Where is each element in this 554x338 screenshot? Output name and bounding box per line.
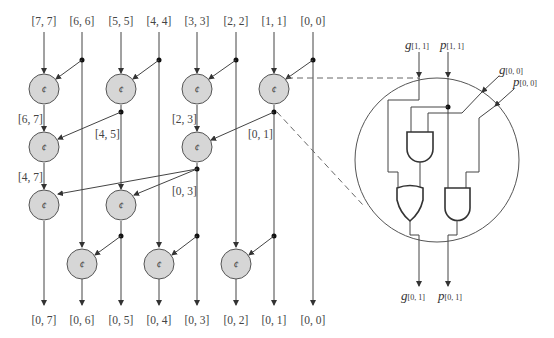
svg-text:¢: ¢ [195,142,200,153]
svg-text:¢: ¢ [42,142,47,153]
and-gate [407,132,433,162]
p00-label: p[0, 0] [512,74,537,89]
prefix-node: ¢ [106,190,136,220]
label-2-3: [2, 3] [172,113,197,126]
input-label-6: [6, 6] [70,15,95,28]
output-label-7: [0, 7] [32,314,57,327]
svg-text:¢: ¢ [80,259,85,270]
prefix-node: ¢ [144,249,174,279]
prefix-node: ¢ [29,190,59,220]
prefix-node: ¢ [67,249,97,279]
output-labels: [0, 7] [0, 6] [0, 5] [0, 4] [0, 3] [0, 2… [32,314,326,327]
input-label-1: [1, 1] [262,15,287,28]
label-6-7: [6, 7] [18,113,43,126]
svg-text:¢: ¢ [195,84,200,95]
svg-text:¢: ¢ [234,259,239,270]
prefix-adder-diagram: [7, 7] [6, 6] [5, 5] [4, 4] [3, 3] [2, 2… [0,0,554,338]
prefix-node: ¢ [29,132,59,162]
svg-text:¢: ¢ [119,84,124,95]
output-label-3: [0, 3] [185,314,210,327]
prefix-node: ¢ [182,132,212,162]
label-4-5: [4, 5] [95,128,120,141]
zoom-detail: g[1, 1] p[1, 1] g[0, 0] p[0, 0] g[0, 1] … [355,37,537,303]
input-label-5: [5, 5] [109,15,134,28]
prefix-node: ¢ [259,74,289,104]
input-label-3: [3, 3] [185,15,210,28]
g11-label: g[1, 1] [405,37,429,52]
p11-label: p[1, 1] [439,37,464,52]
g01-label: g[0, 1] [401,288,425,303]
and-gate-bottom [445,188,470,221]
svg-text:¢: ¢ [119,200,124,211]
output-label-5: [0, 5] [109,314,134,327]
input-label-4: [4, 4] [147,15,172,28]
g00-label: g[0, 0] [499,62,523,77]
input-label-0: [0, 0] [301,15,326,28]
prefix-node: ¢ [29,74,59,104]
svg-text:¢: ¢ [272,84,277,95]
svg-text:¢: ¢ [42,84,47,95]
prefix-node: ¢ [106,74,136,104]
label-0-3: [0, 3] [172,185,197,198]
output-label-2: [0, 2] [224,314,249,327]
input-label-7: [7, 7] [32,15,57,28]
output-label-1: [0, 1] [262,314,287,327]
input-labels: [7, 7] [6, 6] [5, 5] [4, 4] [3, 3] [2, 2… [32,15,326,28]
output-label-4: [0, 4] [147,314,172,327]
prefix-node: ¢ [221,249,251,279]
label-4-7: [4, 7] [18,171,43,184]
magnifier-circle [355,78,519,242]
p01-label: p[0, 1] [437,288,462,303]
output-label-0: [0, 0] [301,314,326,327]
label-0-1: [0, 1] [248,128,273,141]
svg-text:¢: ¢ [42,200,47,211]
prefix-node: ¢ [182,74,212,104]
output-label-6: [0, 6] [70,314,95,327]
input-label-2: [2, 2] [224,15,249,28]
zoom-line-bottom [277,112,363,205]
svg-text:¢: ¢ [157,259,162,270]
